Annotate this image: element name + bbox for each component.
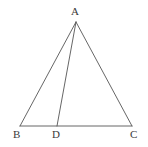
segment-ab — [20, 22, 76, 126]
triangle-diagram-canvas — [0, 0, 148, 147]
segment-ac — [76, 22, 132, 126]
vertex-label-b: B — [13, 129, 20, 140]
vertex-label-d: D — [52, 129, 60, 140]
segment-ad — [57, 22, 76, 126]
triangle-segments — [20, 22, 132, 126]
vertex-label-a: A — [71, 6, 79, 17]
vertex-label-c: C — [130, 129, 137, 140]
geometry-figure: A B D C — [0, 0, 148, 147]
